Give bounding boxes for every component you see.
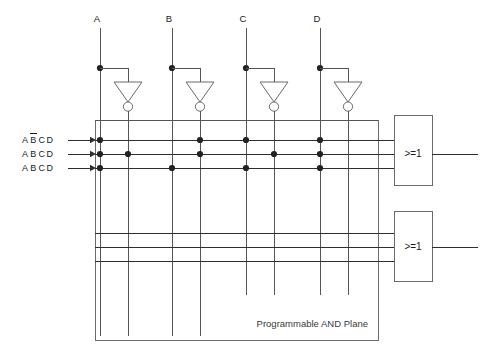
product-term-char-1-1: A (22, 135, 28, 145)
inverter-bubble-C (269, 102, 278, 111)
product-term-rows: ABCDABCDABCD (22, 133, 394, 173)
product-term-char-1-3: C (38, 135, 45, 145)
pla-diagram-svg: ABCDABCDABCDABCD>=1>=1Programmable AND P… (0, 0, 489, 358)
input-label-C: C (240, 13, 247, 24)
product-term-label-1: ABCD (22, 133, 54, 145)
product-term-char-3-2: B (30, 163, 36, 173)
product-term-char-1-2: B (30, 135, 36, 145)
inverter-triangle-A (114, 82, 142, 102)
product-term-char-3-3: C (38, 163, 45, 173)
lower-product-lines (95, 233, 394, 261)
product-term-row-2: ABCD (22, 149, 394, 159)
or-gate-1[interactable]: >=1 (394, 115, 478, 185)
product-term-char-2-4: D (47, 149, 54, 159)
and-connection-dot (317, 151, 323, 157)
product-term-row-1: ABCD (22, 133, 394, 145)
product-term-label-2: ABCD (22, 149, 54, 159)
inverter-bubble-B (195, 102, 204, 111)
and-connection-dot (97, 151, 103, 157)
or-plane: >=1>=1 (394, 115, 478, 281)
product-term-char-2-2: B (30, 149, 36, 159)
or-gate-label-2: >=1 (404, 241, 422, 252)
and-plane-caption: Programmable AND Plane (257, 318, 368, 329)
and-connection-dot (197, 137, 203, 143)
inverter-bubble-D (343, 102, 352, 111)
input-label-D: D (314, 13, 321, 24)
product-term-char-2-3: C (38, 149, 45, 159)
and-connection-dot (317, 165, 323, 171)
and-connection-dot (125, 151, 131, 157)
and-connection-dot (169, 165, 175, 171)
product-term-char-2-1: A (22, 149, 28, 159)
product-term-char-1-4: D (47, 135, 54, 145)
product-term-row-3: ABCD (22, 163, 394, 173)
pla-diagram-canvas: ABCDABCDABCDABCD>=1>=1Programmable AND P… (0, 0, 489, 358)
and-connection-dot (271, 151, 277, 157)
inverter-triangle-B (186, 82, 214, 102)
and-plane-border (95, 120, 378, 340)
and-connection-dot (97, 165, 103, 171)
input-group-B: B (166, 13, 214, 336)
inverter-bubble-A (123, 102, 132, 111)
input-group-A: A (94, 13, 142, 336)
inverter-triangle-D (334, 82, 362, 102)
or-gate-2[interactable]: >=1 (394, 211, 478, 281)
inverter-triangle-C (260, 82, 288, 102)
and-connection-dot (197, 151, 203, 157)
and-connection-dot (243, 165, 249, 171)
product-term-label-3: ABCD (22, 163, 54, 173)
input-label-A: A (94, 13, 101, 24)
and-connection-dot (317, 137, 323, 143)
and-connection-dot (97, 137, 103, 143)
input-label-B: B (166, 13, 172, 24)
and-plane (95, 120, 378, 340)
or-gate-label-1: >=1 (404, 148, 422, 159)
product-term-char-3-1: A (22, 163, 28, 173)
and-connection-dot (243, 137, 249, 143)
product-term-char-3-4: D (47, 163, 54, 173)
input-section: ABCD (94, 13, 362, 336)
